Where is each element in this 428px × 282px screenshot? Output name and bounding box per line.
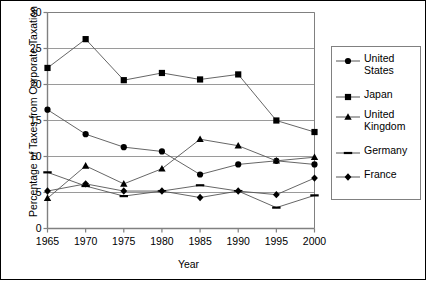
legend-item-united-states[interactable]: UnitedStates: [332, 53, 422, 76]
series-united-kingdom: [44, 135, 318, 201]
x-tick-label: 1965: [28, 235, 68, 247]
legend-label: Germany: [361, 145, 407, 157]
legend-label-line2: Kingdom: [364, 120, 405, 132]
legend-marker: [345, 58, 351, 64]
legend-marker: [345, 173, 352, 180]
legend-label-line2: States: [364, 64, 394, 76]
legend-label: UnitedKingdom: [361, 109, 405, 132]
chart-legend: UnitedStatesJapanUnitedKingdomGermanyFra…: [331, 46, 421, 200]
data-point: [272, 207, 280, 209]
legend-marker-triangle-icon: [335, 110, 361, 124]
data-point: [159, 70, 165, 76]
x-tick-label: 1985: [180, 235, 220, 247]
legend-marker-diamond-icon: [335, 170, 361, 184]
data-point: [121, 144, 127, 150]
legend-item-united-kingdom[interactable]: UnitedKingdom: [332, 109, 422, 132]
series-line: [48, 139, 315, 198]
legend-item-france[interactable]: France: [332, 169, 422, 184]
data-point: [121, 77, 127, 83]
data-point: [196, 135, 203, 142]
x-tick-label: 1980: [142, 235, 182, 247]
data-point: [197, 171, 203, 177]
x-tick-label: 1970: [66, 235, 106, 247]
data-point: [235, 71, 241, 77]
data-point: [158, 165, 165, 172]
legend-item-germany[interactable]: Germany: [332, 145, 422, 160]
data-point: [196, 184, 204, 186]
x-tick-label: 1995: [256, 235, 296, 247]
data-point: [159, 187, 166, 194]
data-point: [273, 117, 279, 123]
x-tick-label: 1975: [104, 235, 144, 247]
data-point: [44, 187, 51, 194]
data-point: [120, 195, 128, 197]
data-point: [120, 187, 127, 194]
x-tick-label: 1990: [218, 235, 258, 247]
data-point: [83, 131, 89, 137]
data-point: [44, 194, 51, 201]
legend-item-japan[interactable]: Japan: [332, 89, 422, 104]
data-point: [159, 148, 165, 154]
data-point: [311, 129, 317, 135]
data-point: [120, 180, 127, 187]
x-tick-label: 2000: [295, 235, 335, 247]
legend-marker: [344, 152, 352, 154]
legend-marker-dash-icon: [335, 146, 361, 160]
data-point: [310, 194, 318, 196]
data-series-layer: [43, 36, 318, 209]
x-axis-title: Year: [47, 258, 330, 270]
legend-label: France: [361, 169, 397, 181]
y-axis-title: Percentage of Taxes from Corporate Taxat…: [27, 27, 39, 217]
data-point: [82, 162, 89, 169]
data-point: [83, 36, 89, 42]
data-point: [197, 76, 203, 82]
data-point: [44, 65, 50, 71]
data-point: [43, 171, 51, 173]
chart-figure: 051015202530 196519701975198019851990199…: [0, 0, 428, 282]
data-point: [197, 194, 204, 201]
legend-marker-circle-icon: [335, 54, 361, 68]
legend-label: Japan: [361, 89, 393, 101]
legend-marker: [345, 94, 351, 100]
y-tick-label: 0: [10, 222, 42, 234]
data-point: [235, 161, 241, 167]
legend-marker-square-icon: [335, 90, 361, 104]
data-point: [235, 187, 242, 194]
data-point: [44, 107, 50, 113]
series-germany: [43, 171, 318, 208]
series-line: [48, 172, 315, 207]
data-point: [311, 161, 317, 167]
legend-label: UnitedStates: [361, 53, 394, 76]
data-point: [311, 174, 318, 181]
